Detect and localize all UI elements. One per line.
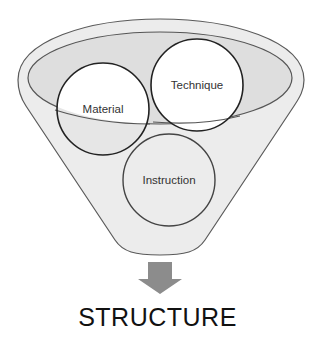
circle-technique: Technique [151,39,243,131]
label-instruction: Instruction [142,174,195,186]
circle-instruction: Instruction [123,134,215,226]
funnel-diagram: Material Technique Instruction [0,0,315,342]
output-label-structure: STRUCTURE [0,303,315,332]
label-technique: Technique [171,79,223,91]
down-arrow-icon [138,262,182,294]
circle-material: Material [55,63,150,155]
label-material: Material [83,103,124,115]
